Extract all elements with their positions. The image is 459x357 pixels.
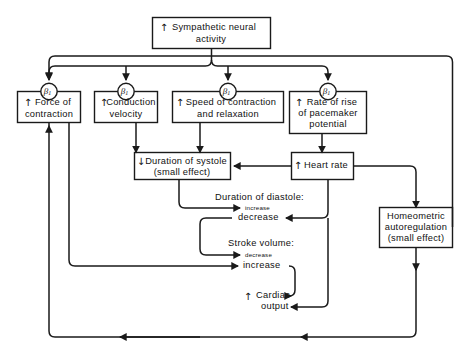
connector-heart-rate-to-homeometric: [354, 166, 417, 208]
sympathetic-label-line1: Sympathetic neural: [172, 22, 256, 32]
connector-sympathetic-fanout: [49, 49, 328, 81]
pacemaker-label-line2: of pacemaker: [298, 108, 357, 118]
systole-down-arrow-icon: ↓: [137, 156, 145, 167]
connector-bottom-bus-right-segment: [301, 268, 416, 337]
heart-rate-up-arrow-icon: ↑: [294, 160, 302, 171]
sympathetic-label-line2: activity: [196, 34, 227, 44]
node-homeometric-autoregulation: Homeometric autoregulation (small effect…: [380, 208, 453, 248]
connector-heart-rate-to-cardiac-output: [291, 218, 328, 307]
node-rate-of-rise-pacemaker: β1 ↑ Rate of rise of pacemaker potential: [290, 83, 367, 133]
connector-force-to-stroke-volume-increase: [69, 123, 238, 267]
cardiac-output-up-arrow-icon: ↑: [244, 291, 252, 302]
pacemaker-label-line3: potential: [309, 119, 346, 129]
conduction-label-line1: Conduction: [106, 97, 156, 107]
conduction-label-line2: velocity: [109, 109, 142, 119]
speed-up-arrow-icon: ↑: [176, 97, 184, 108]
node-cardiac-output: ↑ Cardiac output: [244, 290, 290, 311]
speed-label-line1: Speed of contraction: [186, 97, 276, 107]
connector-to-force: [49, 60, 212, 80]
systole-label-line1: Duration of systole: [145, 156, 227, 166]
node-duration-of-systole: ↓ Duration of systole (small effect): [135, 153, 231, 180]
cardiac-sympathetic-flowchart: ↑ Sympathetic neural activity β1 ↑ Force…: [0, 0, 459, 357]
node-speed-of-contraction: β1 ↑ Speed of contraction and relaxation: [173, 83, 284, 122]
systole-label-line2: (small effect): [154, 167, 211, 177]
pacemaker-label-line1: Rate of rise: [307, 97, 358, 107]
flowchart-diagram: ↑ Sympathetic neural activity β1 ↑ Force…: [0, 0, 459, 357]
connector-diastole-decrease-to-stroke-volume-decrease: [200, 218, 240, 255]
pacemaker-up-arrow-icon: ↑: [295, 97, 303, 108]
stroke-volume-increase-label: increase: [243, 260, 281, 270]
node-conduction-velocity: β1 ↑ Conduction velocity: [95, 83, 158, 122]
cardiac-output-label-line1: Cardiac: [256, 290, 290, 300]
connector-to-pacemaker: [212, 49, 329, 81]
cardiac-output-label-line2: output: [261, 301, 289, 311]
force-label-line2: contraction: [25, 109, 73, 119]
diastole-increase-label: increase: [245, 204, 270, 211]
force-up-arrow-icon: ↑: [24, 97, 32, 108]
sympathetic-up-arrow-icon: ↑: [160, 22, 168, 33]
heart-rate-label: Heart rate: [304, 160, 348, 170]
homeometric-label-line2: autoregulation: [385, 222, 447, 232]
node-force-of-contraction: β1 ↑ Force of contraction: [18, 83, 81, 122]
force-label-line1: Force of: [35, 97, 71, 107]
homeometric-label-line1: Homeometric: [387, 211, 445, 221]
node-sympathetic-neural-activity: ↑ Sympathetic neural activity: [153, 18, 271, 49]
diastole-decrease-label: decrease: [238, 212, 279, 222]
stroke-volume-title-label: Stroke volume:: [228, 238, 294, 248]
homeometric-label-line3: (small effect): [388, 233, 445, 243]
node-heart-rate: ↑ Heart rate: [292, 153, 354, 180]
diastole-title-label: Duration of diastole:: [215, 192, 304, 202]
stroke-volume-decrease-label: decrease: [245, 251, 272, 258]
speed-label-line2: and relaxation: [197, 109, 259, 119]
